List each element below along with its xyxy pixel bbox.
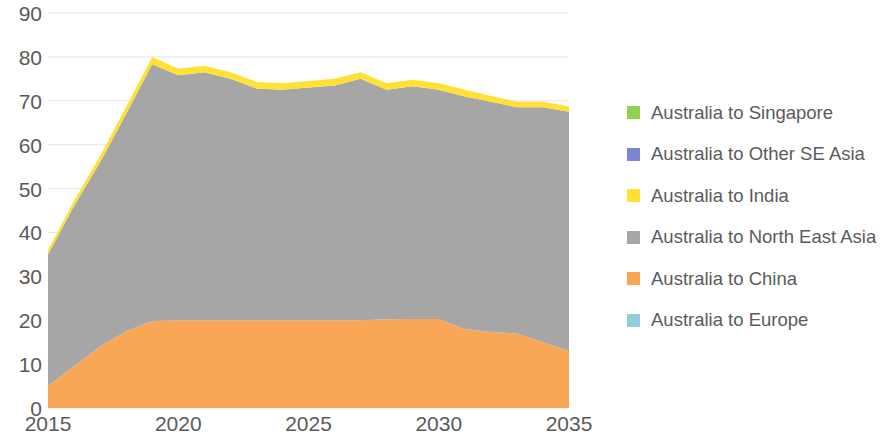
legend-item[interactable]: Australia to China bbox=[627, 258, 886, 300]
x-axis-tick-label: 2035 bbox=[529, 413, 609, 434]
stacked-area-chart: 0102030405060708090 20152020202520302035… bbox=[0, 0, 886, 446]
legend-item-label: Australia to Europe bbox=[651, 311, 808, 330]
series-areas bbox=[48, 57, 569, 408]
chart-legend: Australia to SingaporeAustralia to Other… bbox=[627, 92, 886, 341]
y-axis: 0102030405060708090 bbox=[0, 0, 42, 446]
legend-item-label: Australia to China bbox=[651, 270, 797, 289]
y-axis-tick-label: 70 bbox=[2, 91, 42, 112]
legend-item-label: Australia to North East Asia bbox=[651, 228, 876, 247]
x-axis-tick-label: 2015 bbox=[8, 413, 88, 434]
y-axis-tick-label: 50 bbox=[2, 179, 42, 200]
x-axis-tick-label: 2030 bbox=[399, 413, 479, 434]
legend-swatch-icon bbox=[627, 272, 640, 285]
y-axis-tick-label: 60 bbox=[2, 135, 42, 156]
y-axis-tick-label: 30 bbox=[2, 266, 42, 287]
x-axis-tick-label: 2025 bbox=[269, 413, 349, 434]
legend-swatch-icon bbox=[627, 231, 640, 244]
legend-item[interactable]: Australia to Singapore bbox=[627, 92, 886, 134]
legend-item[interactable]: Australia to North East Asia bbox=[627, 217, 886, 259]
legend-item[interactable]: Australia to India bbox=[627, 175, 886, 217]
y-axis-tick-label: 80 bbox=[2, 47, 42, 68]
legend-item[interactable]: Australia to Other SE Asia bbox=[627, 134, 886, 176]
legend-item[interactable]: Australia to Europe bbox=[627, 300, 886, 342]
x-axis-tick-label: 2020 bbox=[138, 413, 218, 434]
legend-item-label: Australia to Other SE Asia bbox=[651, 145, 865, 164]
legend-swatch-icon bbox=[627, 314, 640, 327]
legend-swatch-icon bbox=[627, 189, 640, 202]
y-axis-tick-label: 40 bbox=[2, 222, 42, 243]
plot-svg bbox=[0, 0, 600, 446]
legend-item-label: Australia to India bbox=[651, 187, 789, 206]
legend-swatch-icon bbox=[627, 106, 640, 119]
y-axis-tick-label: 10 bbox=[2, 354, 42, 375]
legend-item-label: Australia to Singapore bbox=[651, 104, 833, 123]
y-axis-tick-label: 90 bbox=[2, 3, 42, 24]
legend-swatch-icon bbox=[627, 148, 640, 161]
area-series bbox=[48, 319, 569, 408]
plot-area: 0102030405060708090 20152020202520302035 bbox=[0, 0, 600, 446]
y-axis-tick-label: 20 bbox=[2, 310, 42, 331]
